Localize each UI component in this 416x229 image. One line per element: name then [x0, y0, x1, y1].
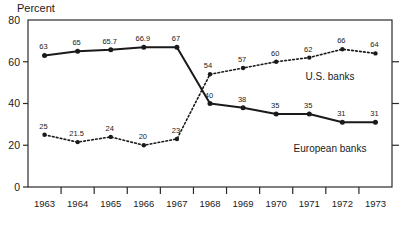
- x-axis-year-labels: 1963196419651966196719681969197019711972…: [34, 198, 386, 209]
- x-axis-year-label: 1968: [199, 198, 220, 209]
- y-tick-label: 80: [8, 14, 20, 26]
- series-label-us-banks: U.S. banks: [306, 71, 355, 82]
- data-point: [141, 45, 146, 50]
- data-point-label: 63: [39, 42, 47, 51]
- x-axis-year-label: 1967: [166, 198, 187, 209]
- y-axis-title: Percent: [17, 2, 55, 14]
- y-tick-label: 60: [8, 56, 20, 68]
- x-axis-year-label: 1970: [266, 198, 287, 209]
- data-point-label: 67: [172, 34, 180, 43]
- data-point: [274, 60, 278, 64]
- y-tick-label: 20: [8, 139, 20, 151]
- data-point-label: 65.7: [102, 37, 117, 46]
- data-point: [174, 45, 179, 50]
- x-axis-year-label: 1965: [100, 198, 121, 209]
- data-point: [108, 47, 113, 52]
- data-point-label: 40: [205, 91, 213, 100]
- data-point: [109, 135, 113, 139]
- data-point-label: 24: [106, 124, 114, 133]
- data-point-label: 66: [337, 36, 345, 45]
- chart-container: Percent 020406080 1963196419651966196719…: [0, 0, 416, 229]
- x-axis-year-label: 1973: [365, 198, 386, 209]
- x-axis-year-label: 1971: [299, 198, 320, 209]
- data-point: [175, 137, 179, 141]
- x-axis-year-label: 1966: [133, 198, 154, 209]
- data-point-label: 54: [204, 61, 212, 70]
- data-point: [42, 53, 47, 58]
- y-tick-label: 40: [8, 97, 20, 109]
- data-point: [241, 105, 246, 110]
- x-axis-year-label: 1964: [67, 198, 88, 209]
- x-axis-year-label: 1972: [332, 198, 353, 209]
- data-point: [340, 47, 344, 51]
- data-point: [208, 72, 212, 76]
- data-point-label: 62: [304, 45, 312, 54]
- data-point-label: 23: [172, 126, 180, 135]
- data-point: [274, 111, 279, 116]
- data-point: [340, 120, 345, 125]
- data-point-label: 31: [337, 109, 345, 118]
- data-point-label: 66.9: [136, 34, 151, 43]
- data-point: [307, 111, 312, 116]
- data-point: [75, 140, 79, 144]
- data-point-label: 31: [370, 109, 378, 118]
- data-point-label: 38: [238, 95, 246, 104]
- data-point: [307, 55, 311, 59]
- data-point-label: 25: [39, 122, 47, 131]
- data-point-label: 20: [139, 132, 147, 141]
- line-chart: Percent 020406080 1963196419651966196719…: [0, 0, 416, 229]
- data-point-label: 21.5: [69, 129, 84, 138]
- data-point-label: 57: [238, 55, 246, 64]
- data-point-label: 35: [304, 101, 312, 110]
- data-point-label: 60: [271, 49, 279, 58]
- chart-background: [0, 0, 416, 229]
- data-point-label: 35: [271, 101, 279, 110]
- data-point: [373, 120, 378, 125]
- data-point: [373, 51, 377, 55]
- data-point-label: 64: [370, 40, 378, 49]
- data-point-label: 65: [72, 38, 80, 47]
- x-axis-year-label: 1969: [233, 198, 254, 209]
- data-point: [208, 101, 213, 106]
- x-axis-year-label: 1963: [34, 198, 55, 209]
- data-point: [75, 49, 80, 54]
- data-point: [142, 143, 146, 147]
- data-point: [241, 66, 245, 70]
- y-tick-label: 0: [14, 181, 20, 193]
- series-label-european-banks: European banks: [294, 143, 367, 154]
- data-point: [42, 133, 46, 137]
